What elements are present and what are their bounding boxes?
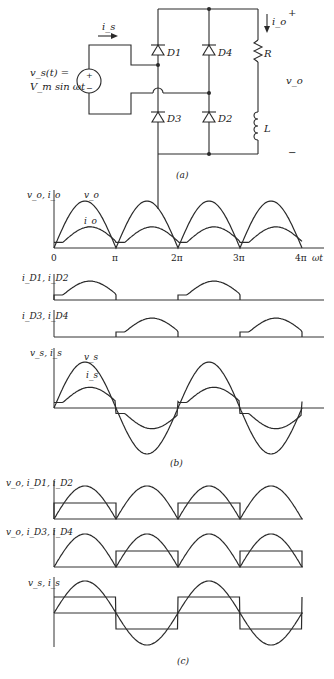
diode-d1-label: D1	[166, 47, 181, 58]
source-plus: +	[86, 71, 93, 80]
waveforms-panel-b: v_o, i_o v_o i_o 0 π 2π 3π 4π ωt i_D1, i…	[22, 190, 324, 468]
source-minus: −	[86, 84, 93, 93]
c2-y-label: v_o, i_D3, i_D4	[6, 527, 73, 538]
waveforms-panel-c: v_o, i_D1, i_D2 v_o, i_D3, i_D4 v_s, i_s…	[6, 478, 303, 666]
diode-d2-icon	[202, 112, 216, 122]
circuit-diagram: + − v_s(t) = V_m sin ωt i_s D1	[30, 7, 303, 209]
diode-d4-icon	[202, 45, 216, 55]
full-bridge-rectifier-figure: + − v_s(t) = V_m sin ωt i_s D1	[0, 0, 334, 679]
caption-c: (c)	[177, 656, 190, 666]
resistor-icon	[254, 40, 262, 62]
resistor-label: R	[263, 48, 272, 59]
b1-io-label: i_o	[84, 216, 97, 227]
b2-y-label: i_D1, i_D2	[22, 273, 69, 284]
diode-d1-icon	[151, 45, 165, 55]
b4-is-label: i_s	[86, 370, 98, 381]
inductor-icon	[254, 112, 258, 140]
diode-d3-label: D3	[166, 113, 181, 124]
b4-y-label: v_s, i_s	[30, 348, 62, 359]
caption-a: (a)	[176, 170, 189, 180]
current-io-label: i_o	[272, 16, 286, 28]
b1-y-label: v_o, i_o	[27, 190, 61, 201]
b1-vo-label: v_o	[84, 190, 100, 201]
tick-2pi: 2π	[171, 253, 183, 263]
arrow-down-icon	[264, 26, 270, 33]
c1-y-label: v_o, i_D1, i_D2	[6, 478, 73, 489]
diode-d4-label: D4	[217, 47, 232, 58]
caption-b: (b)	[170, 458, 183, 468]
diode-d3-icon	[151, 112, 165, 122]
diode-d2-label: D2	[217, 113, 232, 124]
tick-0: 0	[51, 253, 57, 263]
tick-3pi: 3π	[233, 253, 245, 263]
output-minus: −	[288, 147, 296, 158]
b4-vs-label: v_s	[84, 352, 99, 363]
c3-y-label: v_s, i_s	[28, 578, 60, 589]
arrow-right-icon	[111, 33, 118, 39]
current-is-label: i_s	[102, 21, 115, 33]
inductor-label: L	[263, 123, 271, 134]
output-voltage-label: v_o	[286, 75, 303, 87]
x-axis-label: ωt	[312, 253, 323, 263]
b3-y-label: i_D3, i_D4	[22, 311, 69, 322]
source-label-2: V_m sin ωt	[30, 81, 86, 93]
tick-4pi: 4π	[295, 253, 307, 263]
output-plus: +	[288, 7, 296, 18]
source-label-1: v_s(t) =	[30, 67, 69, 79]
tick-pi: π	[112, 253, 118, 263]
